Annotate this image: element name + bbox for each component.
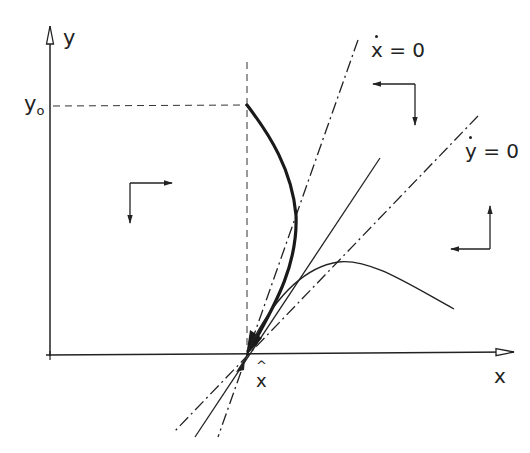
guide-lines [53, 62, 247, 352]
xdot-zero-eq: = 0 [389, 38, 425, 62]
x-axis-label: x [494, 366, 506, 386]
y0-label-subscript: o [36, 103, 44, 118]
thin-trajectory [248, 262, 454, 350]
xdot-zero-var: x [371, 38, 383, 62]
direction-indicator-left [130, 183, 172, 223]
ydot-zero-nullcline [173, 116, 478, 433]
ydot-zero-var: y [465, 139, 477, 163]
ydot-zero-label: y = 0 [465, 141, 519, 161]
xhat-accent: ^ [256, 359, 267, 372]
y0-label: yo [24, 94, 44, 117]
straight-separatrix [195, 158, 380, 437]
xhat-label: ^x [256, 372, 267, 390]
phase-plane-diagram: y yo x ^x x = 0 y = 0 [0, 0, 530, 453]
x-axis [46, 352, 514, 355]
xdot-zero-nullcline [218, 40, 358, 437]
direction-indicator-lower-right [451, 206, 490, 249]
ydot-zero-eq: = 0 [483, 139, 519, 163]
direction-indicator-upper-right [373, 84, 415, 125]
xdot-zero-label: x = 0 [371, 40, 425, 60]
y0-label-var: y [24, 92, 36, 116]
y0-guide-line [53, 105, 247, 106]
xhat-var: x [256, 370, 267, 391]
y-axis-label: y [63, 28, 75, 49]
nullclines [173, 40, 478, 437]
